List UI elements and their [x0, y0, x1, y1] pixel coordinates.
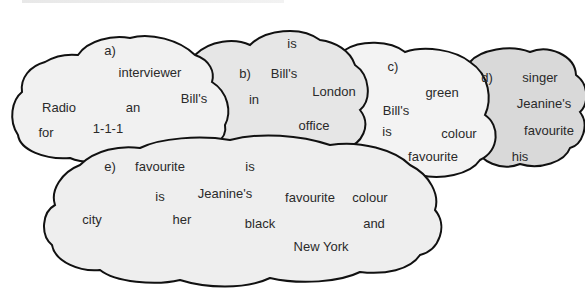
cloud-e-word: and: [363, 217, 385, 230]
cloud-c-word: Bill's: [383, 104, 409, 117]
cloud-c-word: is: [382, 125, 391, 138]
cloud-e-word: is: [245, 160, 254, 173]
cloud-b-word: in: [249, 93, 259, 106]
cloud-d-label: d): [481, 71, 493, 84]
cloud-c-word: green: [425, 86, 458, 99]
cloud-c-word: colour: [441, 127, 476, 140]
cloud-c-label: c): [388, 60, 399, 73]
cloud-b-word: Bill's: [271, 67, 297, 80]
cloud-d-word: his: [512, 150, 529, 163]
cloud-d-word: Jeanine's: [517, 97, 572, 110]
cloud-a-word: interviewer: [119, 66, 182, 79]
cloud-a-label: a): [104, 44, 116, 57]
cloud-b-word: is: [287, 37, 296, 50]
cloud-a-word: Radio: [42, 101, 76, 114]
cloud-e-word: is: [155, 190, 164, 203]
word-cloud-exercise: a) interviewer Bill's Radio an for 1-1-1…: [0, 0, 585, 296]
cloud-e-label: e): [104, 160, 116, 173]
cloud-d-word: favourite: [524, 124, 574, 137]
cloud-c-word: favourite: [408, 150, 458, 163]
cloud-a-word: an: [126, 101, 140, 114]
cloud-a-word: 1-1-1: [93, 122, 123, 135]
cloud-b-word: London: [312, 85, 355, 98]
cloud-e-word: favourite: [285, 191, 335, 204]
cloud-e-word: favourite: [135, 160, 185, 173]
cloud-e-word: her: [173, 213, 192, 226]
cloud-d-word: singer: [522, 71, 557, 84]
cloud-e-word: New York: [294, 240, 349, 253]
cloud-a-word: for: [38, 126, 53, 139]
cloud-e-word: city: [82, 213, 102, 226]
cloud-e-word: colour: [352, 191, 387, 204]
cloud-b-label: b): [239, 67, 251, 80]
cloud-e-word: black: [245, 217, 275, 230]
cloud-b-word: office: [299, 119, 330, 132]
cloud-e-word: Jeanine's: [198, 187, 253, 200]
cloud-a-word: Bill's: [181, 92, 207, 105]
